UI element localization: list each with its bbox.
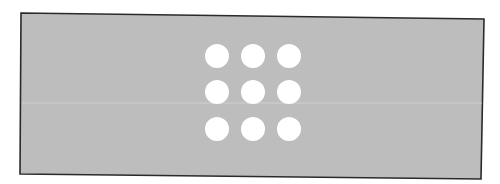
dot-r2-c1 xyxy=(205,80,229,104)
dot-r1-c1 xyxy=(205,44,229,68)
figure xyxy=(0,0,500,184)
dot-r3-c3 xyxy=(277,117,301,141)
dot-r3-c2 xyxy=(241,117,265,141)
dot-r1-c2 xyxy=(241,44,265,68)
dot-r3-c1 xyxy=(205,117,229,141)
dot-r2-c2 xyxy=(241,80,265,104)
dot-grid xyxy=(205,44,301,141)
dot-r2-c3 xyxy=(277,80,301,104)
dot-r1-c3 xyxy=(277,44,301,68)
dot-grid-panel-figure xyxy=(0,0,500,184)
